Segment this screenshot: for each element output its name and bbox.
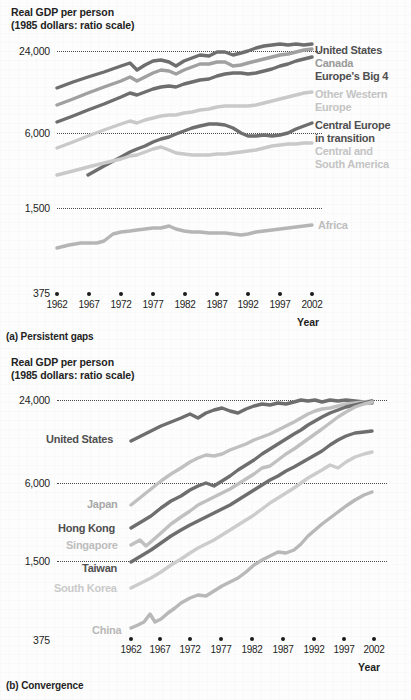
x-tick-label-1992-a: 1992 <box>231 299 265 310</box>
chart-panel-persistent-gaps: Real GDP per person (1985 dollars: ratio… <box>0 0 411 348</box>
x-tick-dot-1962-b <box>129 637 133 641</box>
x-tick-dot-1962-a <box>55 292 59 296</box>
x-tick-dot-1982-b <box>250 637 254 641</box>
x-tick-dot-1977-b <box>219 637 223 641</box>
line-africa-a <box>57 225 312 248</box>
line-canada-a <box>57 49 312 105</box>
x-tick-dot-1982-a <box>183 292 187 296</box>
series-label-japan-b: Japan <box>87 498 118 511</box>
x-tick-label-1997-a: 1997 <box>263 299 297 310</box>
series-label-taiwan-b: Taiwan <box>82 562 117 575</box>
x-tick-dot-1992-a <box>246 292 250 296</box>
series-label-africa-a: Africa <box>318 219 348 232</box>
series-label-other-western-europe-a: Other Western Europe <box>315 88 387 113</box>
series-label-europes-big-4-a: Europe's Big 4 <box>315 70 388 83</box>
x-tick-dot-2002-b <box>372 637 376 641</box>
x-tick-label-1992-b: 1992 <box>297 644 331 655</box>
x-tick-dot-1972-b <box>188 637 192 641</box>
x-tick-dot-1992-b <box>312 637 316 641</box>
series-label-central-south-america-a: Central and South America <box>315 145 389 170</box>
panel-caption-b: (b) Convergence <box>6 680 83 691</box>
chart-panel-convergence: Real GDP per person (1985 dollars: ratio… <box>0 350 411 700</box>
line-taiwan-b <box>131 431 372 562</box>
x-tick-label-1982-b: 1982 <box>235 644 269 655</box>
x-tick-label-1987-a: 1987 <box>200 299 234 310</box>
series-label-canada-a: Canada <box>315 57 353 70</box>
x-tick-dot-1987-a <box>215 292 219 296</box>
x-tick-label-1977-b: 1977 <box>204 644 238 655</box>
panel-caption-a: (a) Persistent gaps <box>6 331 94 342</box>
x-tick-label-1972-b: 1972 <box>173 644 207 655</box>
x-tick-dot-1987-b <box>281 637 285 641</box>
x-tick-label-1977-a: 1977 <box>136 299 170 310</box>
x-tick-dot-1997-b <box>342 637 346 641</box>
series-label-singapore-b: Singapore <box>66 539 118 552</box>
x-tick-label-1967-a: 1967 <box>72 299 106 310</box>
line-central-europe-in-transition-a <box>88 123 312 175</box>
x-tick-label-1997-b: 1997 <box>327 644 361 655</box>
series-label-south-korea-b: South Korea <box>54 582 117 595</box>
x-tick-dot-1972-a <box>119 292 123 296</box>
x-tick-dot-1997-a <box>278 292 282 296</box>
x-axis-title-b: Year <box>358 661 380 673</box>
x-tick-dot-1967-a <box>87 292 91 296</box>
x-tick-label-1987-b: 1987 <box>266 644 300 655</box>
series-label-hong-kong-b: Hong Kong <box>58 522 115 535</box>
x-tick-label-2002-a: 2002 <box>295 299 329 310</box>
line-united-states-a <box>57 44 312 88</box>
line-china-b <box>131 492 372 628</box>
x-tick-dot-1977-a <box>151 292 155 296</box>
line-other-western-europe-a <box>57 92 312 148</box>
x-tick-label-1962-a: 1962 <box>40 299 74 310</box>
series-label-united-states-a: United States <box>315 44 382 57</box>
x-tick-label-1967-b: 1967 <box>143 644 177 655</box>
series-label-central-europe-in-transition-a: Central Europe in transition <box>315 119 390 144</box>
x-tick-dot-2002-a <box>310 292 314 296</box>
x-axis-title-a: Year <box>297 316 319 328</box>
x-tick-dot-1967-b <box>158 637 162 641</box>
x-tick-label-1972-a: 1972 <box>104 299 138 310</box>
series-label-china-b: China <box>92 624 121 637</box>
series-label-united-states-b: United States <box>46 433 113 446</box>
x-tick-label-1982-a: 1982 <box>168 299 202 310</box>
x-tick-label-2002-b: 2002 <box>357 644 391 655</box>
